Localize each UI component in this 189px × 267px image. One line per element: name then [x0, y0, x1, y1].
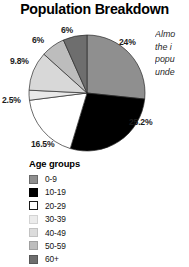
- pie-chart: [28, 34, 146, 152]
- pie-label-0-9: 24%: [119, 37, 136, 47]
- legend-item-label: 10-19: [45, 187, 66, 197]
- legend-swatch-icon: [29, 188, 38, 197]
- side-text-line: Almo: [155, 28, 189, 41]
- pie-slices: [29, 35, 145, 151]
- legend-item-0-9[interactable]: 0-9: [29, 173, 139, 185]
- legend-item-50-59[interactable]: 50-59: [29, 240, 139, 252]
- legend-item-60plus[interactable]: 60+: [29, 253, 139, 265]
- legend-item-40-49[interactable]: 40-49: [29, 227, 139, 239]
- chart-title: Population Breakdown: [0, 1, 189, 17]
- pie-label-60plus: 6%: [61, 25, 73, 35]
- legend: Age groups 0-910-1920-2930-3940-4950-596…: [29, 158, 139, 267]
- legend-item-10-19[interactable]: 10-19: [29, 186, 139, 198]
- legend-item-30-39[interactable]: 30-39: [29, 213, 139, 225]
- legend-item-20-29[interactable]: 20-29: [29, 200, 139, 212]
- legend-item-label: 20-29: [45, 201, 66, 211]
- legend-swatch-icon: [29, 201, 38, 210]
- legend-item-label: 30-39: [45, 214, 66, 224]
- legend-items: 0-910-1920-2930-3940-4950-5960+: [29, 173, 139, 265]
- side-body-text: Almothe ipopuunde: [155, 28, 189, 78]
- legend-swatch-icon: [29, 228, 38, 237]
- pie-slice-0-9[interactable]: [87, 35, 145, 99]
- pie-label-30-39: 2.5%: [2, 95, 21, 105]
- chart-figure: Population Breakdown 24%25.2%16.5%2.5%9.…: [0, 0, 189, 267]
- legend-item-label: 60+: [45, 254, 59, 264]
- side-text-line: unde: [155, 66, 189, 79]
- legend-item-label: 50-59: [45, 241, 66, 251]
- pie-label-10-19: 25.2%: [129, 117, 152, 127]
- pie-label-50-59: 6%: [32, 35, 44, 45]
- side-text-line: popu: [155, 53, 189, 66]
- legend-swatch-icon: [29, 241, 38, 250]
- pie-label-20-29: 16.5%: [31, 139, 54, 149]
- legend-swatch-icon: [29, 255, 38, 264]
- legend-item-label: 40-49: [45, 228, 66, 238]
- legend-swatch-icon: [29, 215, 38, 224]
- pie-label-40-49: 9.8%: [10, 56, 29, 66]
- legend-item-label: 0-9: [45, 174, 57, 184]
- pie-svg: [28, 34, 146, 152]
- side-text-line: the i: [155, 41, 189, 54]
- legend-swatch-icon: [29, 175, 38, 184]
- legend-title: Age groups: [29, 158, 139, 169]
